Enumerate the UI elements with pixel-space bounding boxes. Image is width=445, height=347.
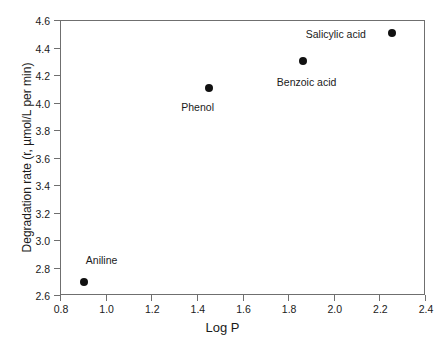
x-axis-tick: 1.6 <box>243 295 244 301</box>
x-axis-tick: 2.2 <box>379 295 380 301</box>
x-axis-tick-label: 1.4 <box>191 301 206 315</box>
y-axis-tick-label: 4.0 <box>35 98 54 109</box>
data-point-label: Benzoic acid <box>277 77 337 88</box>
x-axis-tick-label: 2.4 <box>419 301 434 315</box>
data-point-label: Salicylic acid <box>306 29 366 40</box>
y-axis-tick-label: 3.0 <box>35 236 54 247</box>
y-axis-tick: 3.4 <box>54 185 60 186</box>
y-axis-tick-label: 3.4 <box>35 181 54 192</box>
x-axis-tick-label: 1.8 <box>282 301 297 315</box>
x-axis-tick-label: 2.0 <box>327 301 342 315</box>
x-axis-tick: 1.2 <box>151 295 152 301</box>
data-point-label: Phenol <box>181 102 214 113</box>
data-point-marker[interactable] <box>80 278 88 286</box>
x-axis-tick-label: 1.6 <box>236 301 251 315</box>
y-axis-tick-label: 4.4 <box>35 43 54 54</box>
x-axis-tick: 1.8 <box>288 295 289 301</box>
y-axis-tick-label: 3.2 <box>35 208 54 219</box>
y-axis-tick-label: 2.8 <box>35 263 54 274</box>
y-axis-tick: 4.6 <box>54 20 60 21</box>
x-axis-title: Log P <box>0 320 445 335</box>
y-axis-tick-label: 4.2 <box>35 71 54 82</box>
y-axis-tick: 4.0 <box>54 103 60 104</box>
y-axis-tick: 4.4 <box>54 48 60 49</box>
y-axis-tick: 3.2 <box>54 213 60 214</box>
y-axis-tick: 2.8 <box>54 268 60 269</box>
scatter-chart-figure: AnilinePhenolBenzoic acidSalicylic acid … <box>0 0 445 347</box>
data-point-marker[interactable] <box>205 84 213 92</box>
y-axis-tick: 4.2 <box>54 75 60 76</box>
data-point-marker[interactable] <box>388 29 396 37</box>
data-point-label: Aniline <box>86 255 118 266</box>
x-axis-tick: 2.4 <box>425 295 426 301</box>
x-axis-tick-label: 2.2 <box>373 301 388 315</box>
y-axis-tick-label: 2.6 <box>35 291 54 302</box>
data-point-marker[interactable] <box>299 57 307 65</box>
x-axis-tick-label: 1.0 <box>99 301 114 315</box>
x-axis-tick: 0.8 <box>60 295 61 301</box>
x-axis-tick: 2.0 <box>334 295 335 301</box>
plot-area: AnilinePhenolBenzoic acidSalicylic acid <box>60 20 425 295</box>
x-axis-tick: 1.4 <box>197 295 198 301</box>
y-axis-tick-label: 4.6 <box>35 16 54 27</box>
y-axis-tick: 3.0 <box>54 240 60 241</box>
x-axis-tick-label: 0.8 <box>54 301 69 315</box>
y-axis-title: Degradation rate (r, µmol/L per min) <box>18 20 36 295</box>
y-axis-tick-label: 3.6 <box>35 153 54 164</box>
y-axis-tick: 3.8 <box>54 130 60 131</box>
x-axis-tick: 1.0 <box>106 295 107 301</box>
x-axis-tick-label: 1.2 <box>145 301 160 315</box>
y-axis-tick: 3.6 <box>54 158 60 159</box>
y-axis-tick-label: 3.8 <box>35 126 54 137</box>
